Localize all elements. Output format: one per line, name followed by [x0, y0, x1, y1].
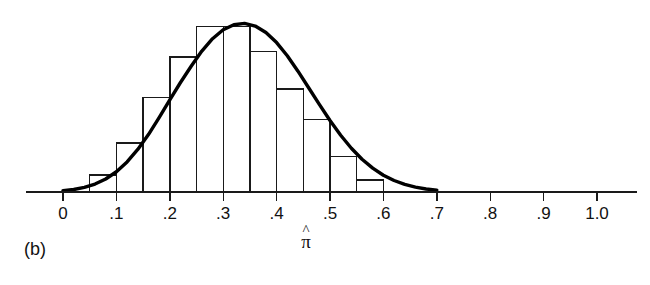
- x-axis-tick-label: .2: [163, 204, 177, 223]
- x-axis-tick-label: 1.0: [585, 204, 609, 223]
- panel-label: (b): [24, 239, 46, 259]
- histogram-bar: [143, 97, 170, 192]
- x-axis-tick-label: .5: [323, 204, 337, 223]
- x-axis-tick-labels: 0.1.2.3.4.5.6.7.8.91.0: [58, 204, 609, 223]
- x-axis-tick-label: .8: [483, 204, 497, 223]
- x-axis-tick-label: .1: [109, 204, 123, 223]
- histogram-bar: [357, 180, 384, 192]
- x-axis-tick-label: .4: [270, 204, 284, 223]
- histogram-bar: [330, 157, 357, 192]
- histogram-bar: [277, 89, 304, 192]
- figure-panel-b: 0.1.2.3.4.5.6.7.8.91.0 ^ π (b): [0, 0, 650, 285]
- x-axis-ticks: [63, 192, 597, 201]
- histogram-bars: [90, 26, 384, 192]
- x-axis-tick-label: .3: [216, 204, 230, 223]
- x-axis-title: π: [301, 231, 311, 252]
- histogram-bar: [303, 119, 330, 192]
- histogram-bar: [223, 26, 250, 192]
- x-axis-tick-label: .9: [537, 204, 551, 223]
- histogram-bar: [250, 52, 277, 192]
- x-axis-tick-label: .6: [376, 204, 390, 223]
- x-axis-tick-label: 0: [58, 204, 67, 223]
- x-axis-tick-label: .7: [430, 204, 444, 223]
- histogram-chart: 0.1.2.3.4.5.6.7.8.91.0 ^ π (b): [0, 0, 650, 285]
